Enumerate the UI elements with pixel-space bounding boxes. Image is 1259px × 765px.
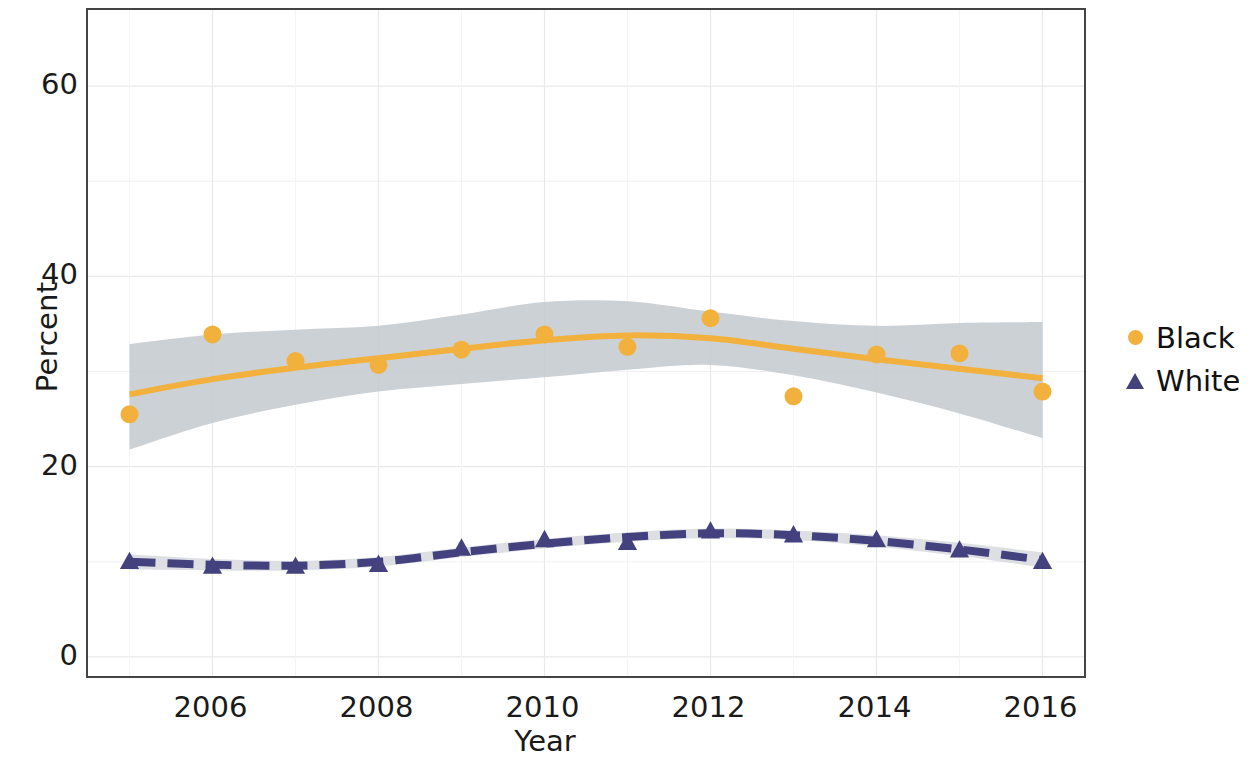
data-point-marker [785,387,803,405]
legend-label-white: White [1150,364,1240,398]
data-point-marker [1034,383,1052,401]
data-point-marker [868,345,886,363]
data-point-marker [287,352,305,370]
legend-triangle-marker-icon [1120,373,1150,389]
data-point-marker [951,344,969,362]
data-point-marker [453,341,471,359]
x-tick-label: 2010 [488,690,598,724]
y-tick-label: 40 [4,257,78,291]
data-point-marker [370,356,388,374]
plot-svg [88,10,1084,676]
data-point-marker [121,405,139,423]
data-point-marker [619,338,637,356]
confidence-bands [130,300,1043,571]
legend-item-black[interactable]: Black [1120,316,1259,359]
x-tick-label: 2014 [820,690,930,724]
legend-circle-marker-icon [1120,330,1150,345]
confidence-band-black [130,300,1043,449]
y-tick-label: 20 [4,448,78,482]
data-point-marker [702,309,720,327]
plot-panel [86,8,1086,678]
x-tick-label: 2006 [156,690,266,724]
data-point-marker [204,325,222,343]
x-tick-label: 2008 [322,690,432,724]
legend-item-white[interactable]: White [1120,359,1259,402]
data-point-marker [536,325,554,343]
y-tick-label: 60 [4,67,78,101]
x-tick-label: 2016 [986,690,1096,724]
x-tick-label: 2012 [654,690,764,724]
legend-swatch-white [1126,373,1144,389]
x-axis-title: Year [0,724,1090,758]
y-tick-label: 0 [4,638,78,672]
legend-label-black: Black [1150,321,1234,355]
y-axis-tick-labels: 0204060 [0,0,78,765]
chart-figure: Percent 0204060 200620082010201220142016… [0,0,1259,765]
legend-swatch-black [1128,330,1143,345]
chart-legend: Black White [1120,316,1259,402]
